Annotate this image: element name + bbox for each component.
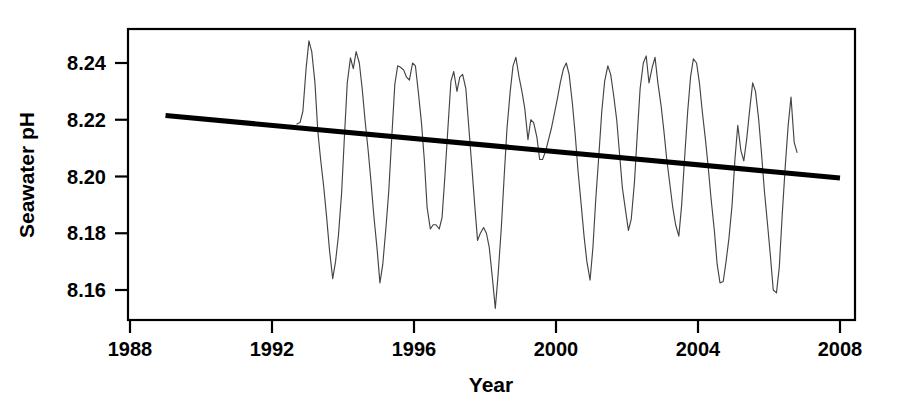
y-tick-label: 8.22: [67, 109, 106, 131]
x-axis-title: Year: [469, 373, 513, 396]
x-axis-ticks: [130, 320, 840, 333]
y-tick-label: 8.18: [67, 222, 106, 244]
y-axis-tick-labels: 8.168.188.208.228.24: [67, 52, 107, 301]
y-tick-label: 8.16: [67, 279, 106, 301]
x-tick-label: 2000: [534, 338, 579, 360]
y-tick-label: 8.20: [67, 166, 106, 188]
chart-figure: 198819921996200020042008 8.168.188.208.2…: [0, 0, 902, 405]
ph-series-line: [297, 41, 797, 309]
y-axis-ticks: [115, 63, 128, 290]
y-tick-label: 8.24: [67, 52, 107, 74]
x-axis-tick-labels: 198819921996200020042008: [108, 338, 863, 360]
chart-canvas: 198819921996200020042008 8.168.188.208.2…: [0, 0, 902, 405]
plot-frame: [128, 29, 855, 320]
x-tick-label: 2008: [818, 338, 863, 360]
x-tick-label: 1996: [392, 338, 437, 360]
y-axis-title: Seawater pH: [15, 112, 38, 238]
x-tick-label: 2004: [676, 338, 721, 360]
x-tick-label: 1992: [250, 338, 295, 360]
x-tick-label: 1988: [108, 338, 153, 360]
trend-line: [166, 115, 841, 177]
